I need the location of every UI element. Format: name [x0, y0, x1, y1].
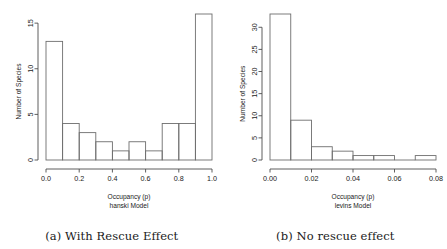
figure-row: 051015Number of Species0.00.20.40.60.81.…: [0, 0, 447, 249]
x-axis-tick-label: 0.4: [107, 174, 117, 183]
panel-b-caption: (b) No rescue effect: [224, 229, 447, 243]
bar: [373, 156, 394, 160]
bar: [96, 142, 113, 160]
y-axis-tick-label: 25: [250, 45, 259, 53]
y-axis-tick-label: 0: [250, 158, 259, 162]
bar: [270, 14, 291, 160]
bars-group: [270, 14, 436, 160]
y-axis-tick-label: 10: [26, 65, 35, 73]
x-axis-tick-label: 0.08: [429, 174, 443, 183]
bar: [112, 151, 129, 160]
bar: [311, 147, 332, 160]
y-axis-tick-label: 15: [250, 90, 259, 98]
y-axis-title: Number of Species: [238, 65, 246, 122]
x-axis-tick-label: 0.04: [346, 174, 360, 183]
panel-b: 051015202530Number of Species0.000.020.0…: [224, 0, 447, 249]
x-axis-tick-label: 0.00: [263, 174, 277, 183]
bar: [129, 142, 146, 160]
x-axis-title-line2: levins Model: [334, 202, 371, 209]
bar: [162, 124, 179, 161]
x-axis-tick-label: 0.02: [304, 174, 318, 183]
bars-group: [46, 14, 212, 160]
x-axis-title-line1: Occupancy (p): [108, 193, 151, 201]
y-axis-title: Number of Species: [15, 63, 23, 120]
x-axis-tick-label: 0.6: [141, 174, 151, 183]
y-axis-tick-label: 10: [250, 112, 259, 120]
y-axis-tick-label: 0: [26, 158, 35, 162]
y-axis-tick-label: 20: [250, 68, 259, 76]
x-axis-tick-label: 0.8: [174, 174, 184, 183]
bar: [46, 41, 63, 160]
x-axis-tick-label: 0.2: [74, 174, 84, 183]
bar: [63, 124, 80, 161]
x-axis-title-line1: Occupancy (p): [331, 193, 374, 201]
histogram-a: 051015Number of Species0.00.20.40.60.81.…: [0, 0, 223, 215]
x-axis-tick-label: 0.0: [41, 174, 51, 183]
x-axis-tick-label: 0.06: [387, 174, 401, 183]
panel-a-caption: (a) With Rescue Effect: [0, 229, 224, 243]
y-axis-tick-label: 30: [250, 23, 259, 31]
bar: [79, 133, 96, 160]
x-axis-title-line2: hanski Model: [110, 202, 149, 209]
panel-a: 051015Number of Species0.00.20.40.60.81.…: [0, 0, 224, 249]
bar: [195, 14, 212, 160]
y-axis-tick-label: 5: [26, 112, 35, 116]
bar: [179, 124, 196, 161]
bar: [415, 156, 436, 160]
bar: [332, 151, 353, 160]
y-axis-tick-label: 5: [250, 136, 259, 140]
x-axis-tick-label: 1.0: [207, 174, 217, 183]
bar: [353, 156, 374, 160]
histogram-b: 051015202530Number of Species0.000.020.0…: [224, 0, 447, 215]
bar: [290, 120, 311, 160]
y-axis-tick-label: 15: [26, 19, 35, 27]
bar: [146, 151, 163, 160]
